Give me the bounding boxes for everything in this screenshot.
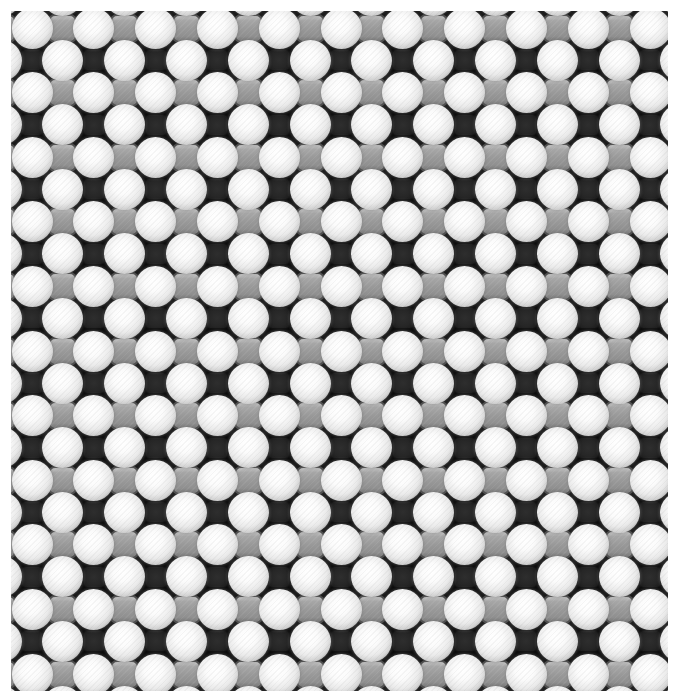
small-atom-row-b <box>454 501 476 523</box>
large-atom-row-a <box>135 137 176 178</box>
large-atom-row-a <box>382 331 423 372</box>
large-atom-row-a <box>444 331 485 372</box>
small-atom-row-b <box>145 243 167 265</box>
small-atom-row-b <box>268 243 290 265</box>
large-atom-row-b <box>11 298 22 339</box>
small-atom-row-b <box>639 114 661 136</box>
large-atom-row-b <box>413 40 454 81</box>
small-atom-row-b <box>83 372 105 394</box>
small-atom-row-b <box>21 307 43 329</box>
large-atom-row-a <box>568 266 609 307</box>
large-atom-row-a <box>630 11 669 49</box>
small-atom-row-b <box>206 178 228 200</box>
small-atom-row-b <box>577 630 599 652</box>
small-atom-row-b <box>392 372 414 394</box>
large-atom-row-b <box>11 40 22 81</box>
large-atom-row-a <box>12 266 53 307</box>
small-atom-row-b <box>392 566 414 588</box>
large-atom-row-b <box>599 492 640 533</box>
large-atom-row-b <box>537 40 578 81</box>
large-atom-row-a <box>73 654 114 692</box>
large-atom-row-b <box>413 169 454 210</box>
large-atom-row-a <box>321 331 362 372</box>
large-atom-row-b <box>475 233 516 274</box>
large-atom-row-a <box>630 331 669 372</box>
small-atom-row-b <box>206 566 228 588</box>
small-atom-row-b <box>330 243 352 265</box>
large-atom-row-b <box>228 233 269 274</box>
large-atom-row-a <box>506 72 547 113</box>
large-atom-row-b <box>42 492 83 533</box>
large-atom-row-a <box>259 460 300 501</box>
large-atom-row-b <box>475 169 516 210</box>
large-atom-row-b <box>475 363 516 404</box>
large-atom-row-b <box>11 363 22 404</box>
small-atom-row-b <box>515 243 537 265</box>
small-atom-row-b <box>515 501 537 523</box>
large-atom-row-a <box>506 11 547 49</box>
large-atom-row-b <box>104 492 145 533</box>
small-atom-row-b <box>206 437 228 459</box>
small-atom-row-b <box>392 630 414 652</box>
large-atom-row-b <box>351 104 392 145</box>
large-atom-row-b <box>413 233 454 274</box>
small-atom-row-b <box>577 372 599 394</box>
large-atom-row-a <box>630 395 669 436</box>
small-atom-row-b <box>268 437 290 459</box>
large-atom-row-b <box>599 233 640 274</box>
small-atom-row-b <box>454 49 476 71</box>
small-atom-row-b <box>268 630 290 652</box>
small-atom-row-b <box>83 49 105 71</box>
large-atom-row-b <box>166 169 207 210</box>
large-atom-row-b <box>42 556 83 597</box>
large-atom-row-a <box>321 395 362 436</box>
large-atom-row-b <box>290 621 331 662</box>
large-atom-row-a <box>444 524 485 565</box>
small-atom-row-b <box>639 566 661 588</box>
small-atom-row-b <box>392 243 414 265</box>
large-atom-row-a <box>382 589 423 630</box>
large-atom-row-a <box>197 331 238 372</box>
small-atom-row-b <box>454 114 476 136</box>
small-atom-row-b <box>145 49 167 71</box>
large-atom-row-b <box>537 492 578 533</box>
small-atom-row-b <box>515 437 537 459</box>
small-atom-row-b <box>268 501 290 523</box>
large-atom-row-a <box>444 460 485 501</box>
small-atom-row-b <box>330 501 352 523</box>
large-atom-row-b <box>351 492 392 533</box>
large-atom-row-a <box>321 137 362 178</box>
large-atom-row-a <box>321 460 362 501</box>
large-atom-row-a <box>630 72 669 113</box>
small-atom-row-b <box>83 437 105 459</box>
small-atom-row-b <box>83 178 105 200</box>
large-atom-row-b <box>351 427 392 468</box>
small-atom-row-b <box>206 372 228 394</box>
large-atom-row-a <box>506 266 547 307</box>
small-atom-row-b <box>392 307 414 329</box>
large-atom-row-a <box>506 460 547 501</box>
small-atom-row-b <box>21 178 43 200</box>
small-atom-row-b <box>330 566 352 588</box>
large-atom-row-b <box>413 556 454 597</box>
small-atom-row-b <box>145 114 167 136</box>
small-atom-row-b <box>515 49 537 71</box>
large-atom-row-b <box>104 40 145 81</box>
small-atom-row-b <box>21 114 43 136</box>
large-atom-row-a <box>73 589 114 630</box>
large-atom-row-b <box>166 363 207 404</box>
small-atom-row-b <box>83 114 105 136</box>
large-atom-row-b <box>228 169 269 210</box>
large-atom-row-a <box>506 654 547 692</box>
large-atom-row-b <box>228 298 269 339</box>
small-atom-row-b <box>145 307 167 329</box>
large-atom-row-a <box>197 72 238 113</box>
large-atom-row-b <box>475 492 516 533</box>
large-atom-row-a <box>73 201 114 242</box>
large-atom-row-a <box>12 524 53 565</box>
large-atom-row-b <box>599 40 640 81</box>
large-atom-row-b <box>11 169 22 210</box>
large-atom-row-b <box>166 427 207 468</box>
small-atom-row-b <box>577 566 599 588</box>
large-atom-row-a <box>135 524 176 565</box>
